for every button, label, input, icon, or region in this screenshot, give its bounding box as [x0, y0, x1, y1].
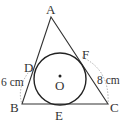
label-e: E: [55, 108, 63, 123]
measure-cf: 8 cm: [97, 74, 120, 86]
label-d: D: [24, 60, 33, 75]
label-b: B: [10, 100, 19, 115]
label-a: A: [46, 2, 56, 17]
label-c: C: [110, 100, 119, 115]
label-o: O: [55, 78, 64, 93]
triangle-abc: [22, 17, 108, 104]
measure-bd: 6 cm: [1, 76, 24, 88]
geometry-diagram: A B C D E F O 6 cm 8 cm: [0, 0, 131, 125]
triangle-incircle-figure: A B C D E F O 6 cm 8 cm: [0, 0, 131, 125]
label-f: F: [82, 47, 89, 62]
